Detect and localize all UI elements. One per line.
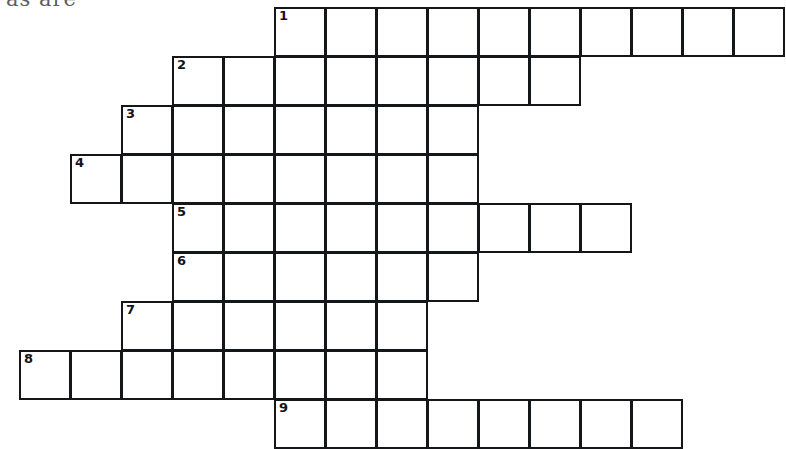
crossword-cell[interactable]	[325, 56, 377, 106]
crossword-cell[interactable]	[274, 203, 326, 253]
crossword-cell[interactable]	[580, 7, 632, 57]
crossword-cell[interactable]	[529, 56, 581, 106]
crossword-cell[interactable]	[427, 56, 479, 106]
cell-clue-number: 9	[279, 401, 288, 415]
crossword-cell[interactable]: 2	[172, 56, 224, 106]
crossword-cell[interactable]: 6	[172, 252, 224, 302]
crossword-cell[interactable]	[376, 350, 428, 400]
crossword-cell[interactable]	[325, 350, 377, 400]
crossword-cell[interactable]	[121, 154, 173, 204]
crossword-cell[interactable]	[427, 154, 479, 204]
crossword-cell[interactable]	[376, 399, 428, 449]
crossword-cell[interactable]	[631, 7, 683, 57]
crossword-cell[interactable]	[580, 203, 632, 253]
crossword-cell[interactable]	[172, 301, 224, 351]
cell-clue-number: 2	[177, 58, 186, 72]
cell-clue-number: 3	[126, 107, 135, 121]
crossword-cell[interactable]	[478, 56, 530, 106]
crossword-cell[interactable]	[376, 7, 428, 57]
crossword-cell[interactable]	[325, 154, 377, 204]
crossword-cell[interactable]	[223, 252, 275, 302]
crossword-cell[interactable]	[70, 350, 122, 400]
crossword-cell[interactable]	[325, 399, 377, 449]
crossword-cell[interactable]	[529, 203, 581, 253]
crossword-cell[interactable]	[325, 301, 377, 351]
crossword-cell[interactable]	[325, 105, 377, 155]
crossword-cell[interactable]: 5	[172, 203, 224, 253]
crossword-cell[interactable]	[376, 252, 428, 302]
crossword-cell[interactable]	[427, 399, 479, 449]
crossword-cell[interactable]	[223, 301, 275, 351]
crossword-cell[interactable]	[733, 7, 785, 57]
crossword-cell[interactable]	[376, 301, 428, 351]
crossword-cell[interactable]	[172, 105, 224, 155]
crossword-cell[interactable]	[376, 203, 428, 253]
crossword-cell[interactable]	[325, 203, 377, 253]
crossword-cell[interactable]	[274, 301, 326, 351]
crossword-cell[interactable]	[223, 350, 275, 400]
crossword-cell[interactable]	[427, 7, 479, 57]
crossword-cell[interactable]	[682, 7, 734, 57]
crossword-cell[interactable]	[223, 203, 275, 253]
crossword-cell[interactable]: 3	[121, 105, 173, 155]
crossword-page: as are 123456789	[0, 0, 786, 449]
crossword-cell[interactable]: 1	[274, 7, 326, 57]
crossword-cell[interactable]	[376, 56, 428, 106]
crossword-cell[interactable]: 4	[70, 154, 122, 204]
crossword-cell[interactable]	[223, 154, 275, 204]
crossword-cell[interactable]	[325, 7, 377, 57]
cell-clue-number: 8	[24, 352, 33, 366]
crossword-cell[interactable]	[376, 105, 428, 155]
crossword-cell[interactable]	[427, 203, 479, 253]
crossword-cell[interactable]	[274, 105, 326, 155]
crossword-cell[interactable]	[121, 350, 173, 400]
crossword-cell[interactable]	[223, 56, 275, 106]
crossword-cell[interactable]	[274, 154, 326, 204]
crossword-cell[interactable]	[376, 154, 428, 204]
crossword-cell[interactable]	[223, 105, 275, 155]
crossword-cell[interactable]	[529, 399, 581, 449]
crossword-cell[interactable]	[580, 399, 632, 449]
crossword-cell[interactable]	[274, 56, 326, 106]
crossword-cell[interactable]	[478, 203, 530, 253]
crossword-cell[interactable]	[478, 7, 530, 57]
crossword-cell[interactable]	[325, 252, 377, 302]
crossword-cell[interactable]	[274, 350, 326, 400]
crossword-cell[interactable]	[478, 399, 530, 449]
crossword-cell[interactable]	[427, 252, 479, 302]
cell-clue-number: 1	[279, 9, 288, 23]
cell-clue-number: 6	[177, 254, 186, 268]
crossword-cell[interactable]	[274, 252, 326, 302]
crossword-cell[interactable]	[631, 399, 683, 449]
crossword-cell[interactable]	[529, 7, 581, 57]
crossword-cell[interactable]: 7	[121, 301, 173, 351]
cell-clue-number: 7	[126, 303, 135, 317]
crossword-cell[interactable]	[172, 350, 224, 400]
crossword-cell[interactable]: 8	[19, 350, 71, 400]
cell-clue-number: 4	[75, 156, 84, 170]
crossword-grid[interactable]: 123456789	[0, 0, 786, 449]
crossword-cell[interactable]	[427, 105, 479, 155]
cell-clue-number: 5	[177, 205, 186, 219]
crossword-cell[interactable]	[172, 154, 224, 204]
crossword-cell[interactable]: 9	[274, 399, 326, 449]
